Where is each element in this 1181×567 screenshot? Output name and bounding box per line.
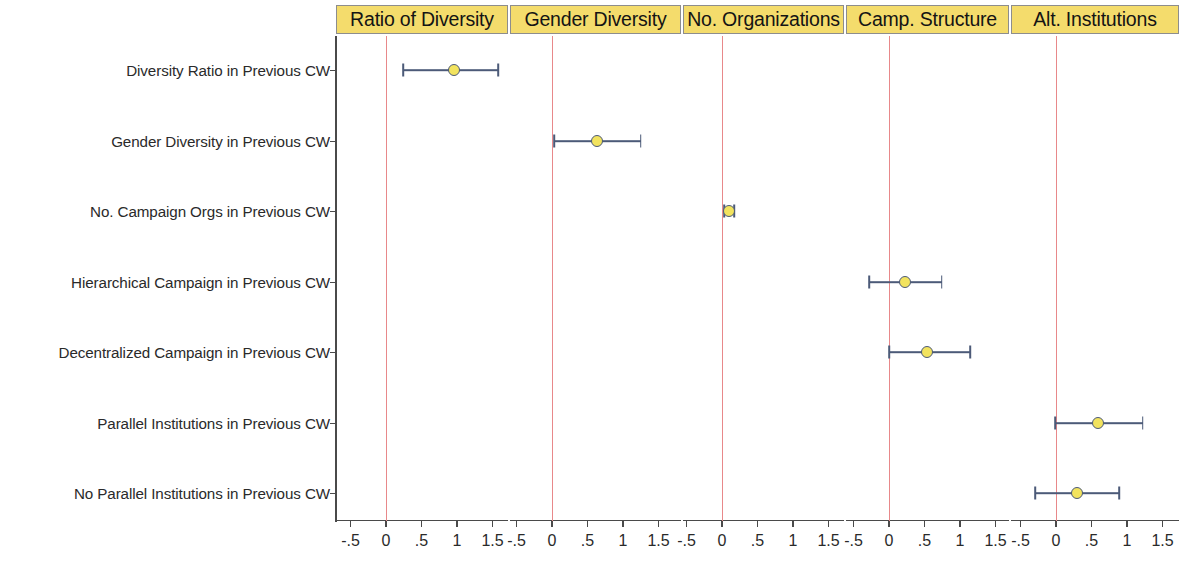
ci-cap-camp-structure-3-low	[868, 276, 870, 289]
panel-frame-no-organizations	[683, 36, 844, 521]
panel-frame-gender-diversity	[510, 36, 681, 521]
panel-frame-alt-institutions	[1011, 36, 1179, 521]
ci-cap-gender-diversity-1-low	[553, 135, 555, 148]
point-estimate-marker-camp-structure-3	[899, 276, 911, 288]
x-tick-label-camp-structure-0: -.5	[844, 532, 863, 550]
x-tick-label-gender-diversity-0: -.5	[507, 532, 526, 550]
ci-cap-alt-institutions-6-low	[1035, 487, 1037, 500]
x-tick-label-no-organizations-2: .5	[751, 532, 764, 550]
ci-cap-alt-institutions-5-high	[1142, 417, 1144, 430]
ci-cap-alt-institutions-6-high	[1118, 487, 1120, 500]
x-tick-ratio-of-diversity-0	[350, 521, 351, 527]
x-tick-label-gender-diversity-3: 1	[619, 532, 628, 550]
ci-cap-gender-diversity-1-high	[640, 135, 642, 148]
panel-header-no-organizations: No. Organizations	[683, 5, 844, 34]
x-tick-label-no-organizations-4: 1.5	[817, 532, 839, 550]
x-tick-label-camp-structure-4: 1.5	[984, 532, 1006, 550]
x-tick-label-ratio-of-diversity-1: 0	[382, 532, 391, 550]
point-estimate-marker-alt-institutions-5	[1092, 417, 1104, 429]
x-tick-camp-structure-0	[853, 521, 854, 527]
y-axis-label-no-campaign-orgs: No. Campaign Orgs in Previous CW	[90, 203, 330, 220]
y-axis-label-diversity-ratio: Diversity Ratio in Previous CW	[126, 62, 330, 79]
x-tick-label-alt-institutions-1: 0	[1052, 532, 1061, 550]
ci-cap-camp-structure-3-high	[941, 276, 943, 289]
x-tick-label-ratio-of-diversity-3: 1	[453, 532, 462, 550]
x-tick-no-organizations-1	[721, 521, 722, 527]
y-axis-label-decentralized-campaign: Decentralized Campaign in Previous CW	[59, 344, 330, 361]
zero-reference-line-camp-structure	[889, 36, 890, 521]
x-tick-label-no-organizations-1: 0	[718, 532, 727, 550]
x-tick-label-camp-structure-2: .5	[918, 532, 931, 550]
point-estimate-marker-ratio-of-diversity-0	[448, 64, 460, 76]
panel-header-ratio-of-diversity: Ratio of Diversity	[336, 5, 508, 34]
x-tick-alt-institutions-4	[1162, 521, 1163, 527]
x-tick-ratio-of-diversity-3	[456, 521, 457, 527]
y-axis-label-gender-diversity: Gender Diversity in Previous CW	[111, 133, 330, 150]
ci-cap-ratio-of-diversity-0-high	[497, 64, 499, 77]
x-tick-no-organizations-2	[757, 521, 758, 527]
x-tick-label-no-organizations-3: 1	[789, 532, 798, 550]
y-axis-label-hierarchical-campaign: Hierarchical Campaign in Previous CW	[71, 274, 330, 291]
point-estimate-marker-camp-structure-4	[921, 346, 933, 358]
coefficient-plot-figure: Ratio of DiversityGender DiversityNo. Or…	[0, 0, 1181, 567]
zero-reference-line-no-organizations	[722, 36, 723, 521]
x-tick-alt-institutions-2	[1091, 521, 1092, 527]
x-tick-label-gender-diversity-2: .5	[581, 532, 594, 550]
panel-header-alt-institutions: Alt. Institutions	[1011, 5, 1179, 34]
x-tick-alt-institutions-0	[1020, 521, 1021, 527]
point-estimate-marker-alt-institutions-6	[1071, 487, 1083, 499]
point-estimate-marker-no-organizations-2	[723, 205, 735, 217]
zero-reference-line-alt-institutions	[1056, 36, 1057, 521]
x-tick-label-camp-structure-1: 0	[885, 532, 894, 550]
y-axis-label-no-parallel-institutions: No Parallel Institutions in Previous CW	[74, 485, 330, 502]
x-tick-label-gender-diversity-1: 0	[548, 532, 557, 550]
x-tick-gender-diversity-0	[516, 521, 517, 527]
x-tick-ratio-of-diversity-2	[421, 521, 422, 527]
ci-cap-camp-structure-4-low	[888, 346, 890, 359]
x-tick-alt-institutions-3	[1126, 521, 1127, 527]
x-tick-label-alt-institutions-0: -.5	[1011, 532, 1030, 550]
panel-header-gender-diversity: Gender Diversity	[510, 5, 681, 34]
ci-cap-alt-institutions-5-low	[1054, 417, 1056, 430]
panel-header-camp-structure: Camp. Structure	[846, 5, 1009, 34]
x-tick-label-gender-diversity-4: 1.5	[647, 532, 669, 550]
panel-frame-ratio-of-diversity	[336, 36, 508, 521]
x-tick-label-no-organizations-0: -.5	[677, 532, 696, 550]
x-tick-ratio-of-diversity-1	[385, 521, 386, 527]
panel-frame-camp-structure	[846, 36, 1009, 521]
x-tick-camp-structure-3	[959, 521, 960, 527]
x-tick-gender-diversity-1	[551, 521, 552, 527]
x-tick-label-alt-institutions-4: 1.5	[1151, 532, 1173, 550]
x-tick-no-organizations-4	[828, 521, 829, 527]
ci-cap-camp-structure-4-high	[969, 346, 971, 359]
zero-reference-line-gender-diversity	[552, 36, 553, 521]
x-tick-camp-structure-4	[995, 521, 996, 527]
x-tick-label-ratio-of-diversity-0: -.5	[341, 532, 360, 550]
x-tick-gender-diversity-4	[658, 521, 659, 527]
x-tick-camp-structure-1	[888, 521, 889, 527]
x-tick-no-organizations-0	[686, 521, 687, 527]
zero-reference-line-ratio-of-diversity	[386, 36, 387, 521]
x-tick-label-alt-institutions-3: 1	[1123, 532, 1132, 550]
x-tick-gender-diversity-3	[622, 521, 623, 527]
x-tick-no-organizations-3	[792, 521, 793, 527]
x-tick-label-alt-institutions-2: .5	[1085, 532, 1098, 550]
y-axis-label-parallel-institutions: Parallel Institutions in Previous CW	[97, 415, 330, 432]
ci-cap-ratio-of-diversity-0-low	[402, 64, 404, 77]
x-tick-gender-diversity-2	[587, 521, 588, 527]
x-tick-alt-institutions-1	[1055, 521, 1056, 527]
x-tick-label-ratio-of-diversity-4: 1.5	[481, 532, 503, 550]
x-tick-label-ratio-of-diversity-2: .5	[415, 532, 428, 550]
point-estimate-marker-gender-diversity-1	[591, 135, 603, 147]
x-tick-ratio-of-diversity-4	[492, 521, 493, 527]
x-tick-camp-structure-2	[924, 521, 925, 527]
x-tick-label-camp-structure-3: 1	[956, 532, 965, 550]
